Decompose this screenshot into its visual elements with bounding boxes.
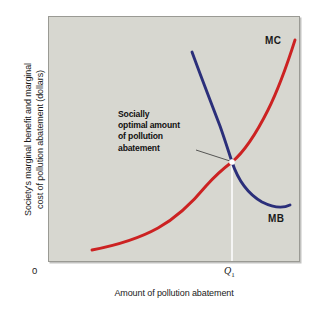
optimal-point-marker [229,159,234,164]
q1-tick-label: Q1 [224,265,235,279]
annotation-line-2: optimal amount [118,120,210,131]
annotation-line-4: abatement [118,143,210,154]
annotation-line-1: Socially [118,109,210,120]
origin-label: 0 [32,265,37,276]
mc-curve-label: MC [265,35,281,46]
chart-canvas [0,0,315,310]
optimal-point-annotation: Socially optimal amount of pollution aba… [118,109,210,154]
mb-curve-label: MB [268,213,284,224]
x-axis-label: Amount of pollution abatement [48,288,300,298]
figure-container: Society's marginal benefit and marginal … [0,0,315,310]
q1-tick-subscript: 1 [231,271,235,279]
annotation-line-3: of pollution [118,131,210,142]
